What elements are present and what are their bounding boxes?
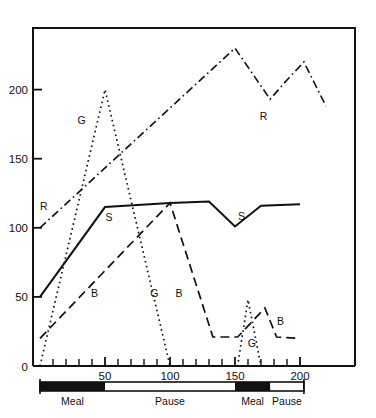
series-label-R-0: R — [40, 200, 48, 212]
figure-background — [0, 0, 376, 418]
series-label-G-0: G — [78, 114, 86, 126]
phase-segment-meal-0 — [40, 382, 105, 391]
x-tick-label-200: 200 — [290, 370, 309, 382]
phase-label-meal-2: Meal — [241, 395, 264, 407]
x-tick-label-100: 100 — [160, 370, 179, 382]
figure-container: 050100150200 50100150200 RRSSBBBGGG Meal… — [0, 0, 376, 418]
series-label-G-2: G — [248, 337, 256, 349]
x-tick-label-150: 150 — [225, 370, 244, 382]
series-label-B-0: B — [91, 287, 98, 299]
phase-segment-meal-2 — [235, 382, 270, 391]
line-chart: 050100150200 50100150200 RRSSBBBGGG Meal… — [0, 0, 376, 418]
y-tick-label-50: 50 — [15, 291, 28, 303]
phase-label-meal-0: Meal — [61, 395, 84, 407]
x-tick-label-50: 50 — [99, 370, 112, 382]
phase-label-pause-3: Pause — [272, 395, 302, 407]
y-tick-label-200: 200 — [9, 84, 28, 96]
series-label-G-1: G — [150, 287, 158, 299]
series-label-S-0: S — [105, 211, 112, 223]
series-label-B-2: B — [277, 315, 284, 327]
y-tick-label-150: 150 — [9, 153, 28, 165]
series-label-R-1: R — [260, 110, 268, 122]
series-label-S-1: S — [238, 210, 245, 222]
y-tick-label-100: 100 — [9, 222, 28, 234]
series-label-B-1: B — [176, 287, 183, 299]
phase-label-pause-1: Pause — [155, 395, 185, 407]
y-tick-label-0: 0 — [22, 361, 28, 373]
